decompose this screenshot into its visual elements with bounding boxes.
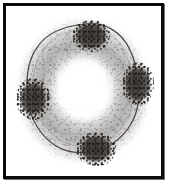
cluster-speckle [122, 62, 154, 106]
cluster-speckle [72, 20, 110, 52]
dark-cluster-south [76, 132, 116, 166]
cluster-speckle [76, 132, 116, 166]
dark-cluster-north [72, 20, 110, 52]
dark-cluster-west [16, 78, 50, 120]
micrograph-figure [0, 0, 176, 191]
micrograph-plate [6, 6, 161, 176]
cluster-speckle [16, 78, 50, 120]
figure-caption [6, 182, 170, 191]
specimen-stage [6, 6, 161, 176]
dark-cluster-east [122, 62, 154, 106]
